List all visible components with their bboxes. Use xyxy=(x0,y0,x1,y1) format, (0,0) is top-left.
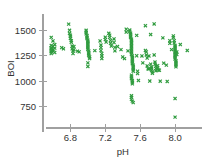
data-point xyxy=(125,31,128,34)
data-point-layer xyxy=(50,22,189,118)
data-point xyxy=(153,22,156,25)
data-point xyxy=(112,37,115,40)
y-tick-label: 1000 xyxy=(15,76,36,87)
x-tick-label: 7.2 xyxy=(99,132,112,143)
x-axis-title: pH xyxy=(117,146,129,157)
data-point xyxy=(135,34,138,37)
data-point xyxy=(93,49,96,52)
y-tick-label: 750 xyxy=(20,101,36,112)
data-point xyxy=(126,49,129,52)
data-point xyxy=(166,80,169,83)
axes-layer xyxy=(39,14,202,132)
data-point xyxy=(51,39,54,42)
data-point xyxy=(161,36,164,39)
data-point xyxy=(86,61,89,64)
data-point xyxy=(113,49,116,52)
data-point xyxy=(165,64,168,67)
data-point xyxy=(68,29,71,32)
data-point xyxy=(67,23,70,26)
data-point xyxy=(108,36,111,39)
data-point xyxy=(99,39,102,42)
data-point xyxy=(144,24,147,27)
x-tick-label: 6.8 xyxy=(64,132,77,143)
chart-figure: 7501000125015006.87.27.68.0pHBOI xyxy=(0,0,210,161)
data-point xyxy=(50,36,53,39)
data-point xyxy=(119,48,122,51)
data-point xyxy=(53,47,56,50)
data-point xyxy=(123,57,126,60)
data-point xyxy=(71,52,74,55)
data-point xyxy=(174,116,177,119)
data-point xyxy=(137,79,140,82)
data-point xyxy=(136,72,139,75)
data-point xyxy=(99,46,102,49)
data-point xyxy=(99,49,102,52)
data-point xyxy=(141,61,144,64)
x-tick-label: 8.0 xyxy=(168,132,181,143)
data-point xyxy=(146,64,149,67)
data-point xyxy=(100,57,103,60)
data-point xyxy=(186,49,189,52)
x-tick-label: 7.6 xyxy=(134,132,147,143)
data-point xyxy=(149,33,152,36)
data-point xyxy=(174,97,177,100)
data-point xyxy=(140,54,143,57)
data-point xyxy=(148,79,151,82)
data-point xyxy=(149,63,152,66)
y-tick-label: 1500 xyxy=(15,25,36,36)
data-point xyxy=(159,80,162,83)
data-point xyxy=(112,41,115,44)
scatter-plot: 7501000125015006.87.27.68.0pHBOI xyxy=(0,0,210,161)
y-axis-title: BOI xyxy=(5,60,16,76)
data-point xyxy=(135,54,138,57)
data-point xyxy=(168,42,171,45)
data-point xyxy=(179,43,182,46)
data-point xyxy=(170,48,173,51)
y-tick-label: 1250 xyxy=(15,50,36,61)
data-point xyxy=(153,53,156,56)
axis-labels-layer: 7501000125015006.87.27.68.0pHBOI xyxy=(5,25,182,157)
data-point xyxy=(86,65,89,68)
